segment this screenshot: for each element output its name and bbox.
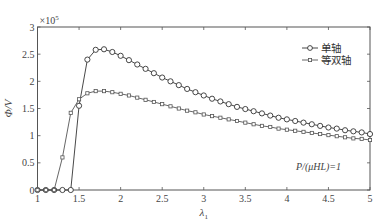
data-point: [269, 125, 272, 128]
chart: 11.522.533.544.5500.511.522.53 单轴等双轴 ×10…: [0, 0, 381, 222]
data-point: [226, 102, 231, 107]
data-point: [326, 125, 331, 130]
data-point: [111, 91, 114, 94]
y-tick-label: 0.5: [22, 157, 35, 168]
data-point: [244, 121, 247, 124]
data-point: [360, 137, 363, 140]
data-point: [194, 111, 197, 114]
data-point: [251, 109, 256, 114]
data-point: [168, 79, 173, 84]
data-point: [77, 98, 80, 101]
data-point: [127, 94, 130, 97]
data-point: [293, 118, 298, 123]
data-point: [186, 109, 189, 112]
y-tick-label: 3: [30, 22, 35, 33]
data-point: [352, 137, 355, 140]
data-point: [309, 122, 314, 127]
data-point: [318, 123, 323, 128]
x-tick-label: 4.5: [322, 193, 335, 204]
data-point: [243, 106, 248, 111]
data-point: [276, 115, 281, 120]
x-tick-label: 2.5: [156, 193, 169, 204]
data-point: [93, 47, 98, 52]
data-point: [118, 53, 123, 58]
data-point: [136, 96, 139, 99]
x-tick-label: 1.5: [73, 193, 86, 204]
data-point: [119, 92, 122, 95]
data-point: [335, 135, 338, 138]
annotation: P/(μHL)=1: [295, 161, 341, 173]
data-point: [53, 188, 56, 191]
x-tick-label: 3: [201, 193, 206, 204]
data-point: [351, 129, 356, 134]
data-point: [359, 130, 364, 135]
y-multiplier: ×105: [40, 14, 60, 26]
data-point: [44, 188, 47, 191]
x-axis-title: λ1: [199, 206, 209, 221]
data-point: [68, 187, 73, 192]
data-point: [319, 132, 322, 135]
data-point: [210, 115, 213, 118]
y-tick-label: 0: [30, 185, 35, 196]
data-point: [343, 136, 346, 139]
data-point: [209, 96, 214, 101]
data-point: [302, 130, 305, 133]
x-tick-label: 3.5: [239, 193, 252, 204]
x-tick-label: 5: [368, 193, 373, 204]
data-point: [85, 57, 90, 62]
data-point: [135, 62, 140, 67]
data-point: [60, 187, 65, 192]
y-tick-label: 2.5: [22, 49, 35, 60]
data-point: [102, 90, 105, 93]
data-point: [334, 126, 339, 131]
x-tick-label: 4: [284, 193, 289, 204]
data-point: [202, 113, 205, 116]
data-point: [310, 131, 313, 134]
data-point: [193, 90, 198, 95]
data-point: [36, 188, 39, 191]
legend-marker-square: [308, 58, 311, 61]
y-tick-label: 1.5: [22, 103, 35, 114]
data-point: [219, 116, 222, 119]
legend: 单轴等双轴: [302, 42, 351, 66]
data-point: [294, 129, 297, 132]
y-tick-label: 1: [30, 130, 35, 141]
legend-marker-circle: [308, 46, 313, 51]
legend-label: 单轴: [321, 42, 341, 54]
data-point: [285, 128, 288, 131]
data-point: [152, 100, 155, 103]
data-point: [259, 111, 264, 116]
data-point: [284, 117, 289, 122]
data-point: [86, 92, 89, 95]
data-point: [227, 118, 230, 121]
data-point: [185, 86, 190, 91]
data-point: [327, 134, 330, 137]
data-point: [110, 49, 115, 54]
data-point: [235, 119, 238, 122]
data-point: [160, 75, 165, 80]
data-point: [342, 128, 347, 133]
data-point: [144, 98, 147, 101]
data-point: [94, 90, 97, 93]
data-point: [268, 113, 273, 118]
data-point: [176, 83, 181, 88]
data-point: [169, 105, 172, 108]
data-point: [234, 104, 239, 109]
data-point: [151, 71, 156, 76]
x-tick-label: 1: [35, 193, 40, 204]
data-point: [126, 58, 131, 63]
data-point: [177, 107, 180, 110]
data-point: [201, 93, 206, 98]
x-tick-label: 2: [118, 193, 123, 204]
data-point: [69, 111, 72, 114]
data-point: [143, 66, 148, 71]
data-point: [277, 127, 280, 130]
data-point: [260, 124, 263, 127]
legend-label: 等双轴: [321, 54, 351, 66]
data-point: [252, 123, 255, 126]
data-point: [101, 47, 106, 52]
series-line: [38, 91, 371, 190]
y-axis-title: Φ/V: [2, 98, 14, 117]
data-point: [367, 131, 372, 136]
data-point: [368, 138, 371, 141]
